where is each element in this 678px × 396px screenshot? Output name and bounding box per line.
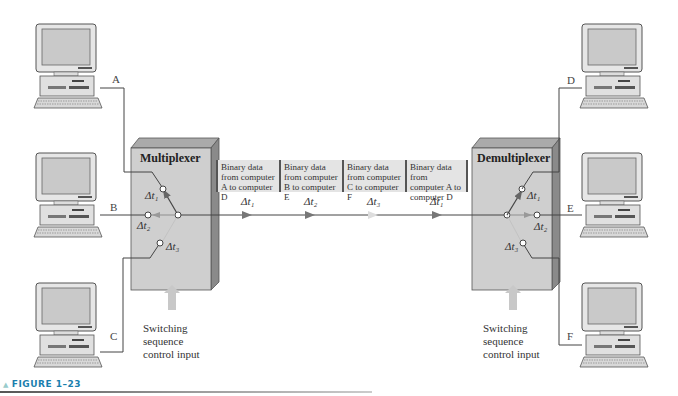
demultiplexer-title: Demultiplexer — [477, 151, 550, 166]
output-label-e: E — [567, 202, 574, 214]
stream-slot-1-label: Δt₁ — [241, 195, 254, 207]
computer-e-icon — [580, 153, 648, 237]
data-segment-3: Binary data from computer C to computer … — [342, 160, 405, 192]
mux-control-line-3: control input — [143, 348, 200, 361]
figure-caption: ▲ FIGURE 1–23 — [3, 379, 81, 389]
mux-slot-2-label: Δt₂ — [137, 219, 150, 231]
demux-slot-3-label: Δt₃ — [505, 240, 518, 252]
computer-d-icon — [580, 24, 648, 108]
computer-c-icon — [34, 283, 102, 367]
flow-arrow-icon — [242, 211, 252, 219]
computer-f-icon — [580, 283, 648, 367]
mux-control-line-1: Switching — [143, 322, 200, 335]
input-label-a: A — [112, 73, 120, 85]
demux-control-label: Switching sequence control input — [483, 322, 540, 361]
demux-control-line-1: Switching — [483, 322, 540, 335]
input-label-b: B — [110, 201, 117, 213]
output-label-d: D — [567, 74, 575, 86]
mux-slot-1-label: Δt₁ — [145, 189, 158, 201]
data-segment-1: Binary data from computer A to computer … — [216, 160, 279, 192]
stream-slot-3-label: Δt₃ — [367, 195, 380, 207]
stream-slot-4-label: Δt₁ — [430, 195, 443, 207]
demux-slot-2-label: Δt₂ — [534, 220, 547, 232]
diagram-canvas — [0, 0, 678, 396]
mux-control-line-2: sequence — [143, 335, 200, 348]
figure-caption-text: FIGURE 1–23 — [12, 379, 81, 389]
demux-slot-1-label: Δt₁ — [527, 189, 540, 201]
mux-control-label: Switching sequence control input — [143, 322, 200, 361]
data-segment-2: Binary data from computer B to computer … — [279, 160, 342, 192]
input-label-c: C — [110, 330, 117, 342]
data-segment-4: Binary data from computer A to computer … — [405, 160, 468, 192]
stream-slot-2-label: Δt₂ — [304, 195, 317, 207]
demux-control-line-3: control input — [483, 348, 540, 361]
multiplexer-title: Multiplexer — [140, 151, 201, 166]
caption-divider — [0, 391, 372, 393]
computer-b-icon — [34, 153, 102, 237]
triangle-icon: ▲ — [3, 381, 12, 389]
demux-control-line-2: sequence — [483, 335, 540, 348]
mux-slot-3-label: Δt₃ — [166, 240, 179, 252]
output-label-f: F — [567, 330, 573, 342]
computer-a-icon — [34, 24, 102, 108]
